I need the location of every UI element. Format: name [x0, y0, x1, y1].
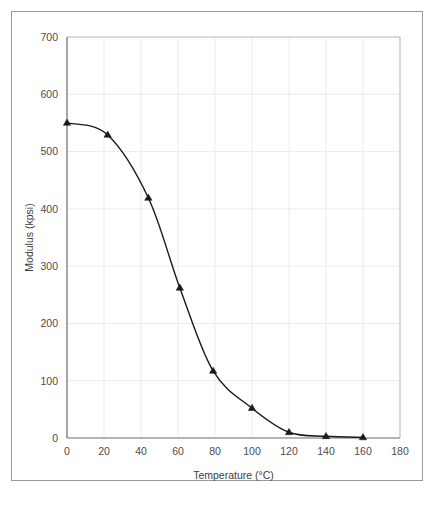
x-tick-label: 40 [135, 445, 147, 457]
plot-frame [67, 37, 400, 438]
x-tick-label: 80 [209, 445, 221, 457]
data-point-marker [176, 284, 183, 290]
modulus-temperature-chart: 0100200300400500600700020406080100120140… [0, 0, 437, 512]
y-tick-label: 100 [40, 375, 58, 387]
x-axis-ticks: 020406080100120140160180 [64, 445, 409, 457]
x-tick-label: 140 [317, 445, 335, 457]
y-tick-label: 200 [40, 317, 58, 329]
y-tick-label: 300 [40, 260, 58, 272]
x-tick-label: 0 [64, 445, 70, 457]
x-tick-label: 20 [98, 445, 110, 457]
y-tick-label: 0 [52, 432, 58, 444]
data-point-marker [209, 367, 216, 373]
y-axis-ticks: 0100200300400500600700 [40, 31, 58, 444]
y-tick-label: 500 [40, 145, 58, 157]
x-tick-label: 180 [391, 445, 409, 457]
x-tick-label: 100 [243, 445, 261, 457]
y-tick-label: 400 [40, 203, 58, 215]
data-point-marker [248, 404, 255, 410]
y-tick-label: 600 [40, 88, 58, 100]
x-tick-label: 120 [280, 445, 298, 457]
x-axis-title: Temperature (°C) [193, 469, 274, 481]
grid-lines [67, 37, 400, 438]
x-tick-label: 160 [354, 445, 372, 457]
data-point-marker [145, 194, 152, 200]
data-point-marker [63, 119, 70, 125]
figure-container: 0100200300400500600700020406080100120140… [0, 0, 437, 512]
y-axis-title: Modulus (kpsi) [23, 203, 35, 271]
x-tick-label: 60 [172, 445, 184, 457]
y-tick-label: 700 [40, 31, 58, 43]
